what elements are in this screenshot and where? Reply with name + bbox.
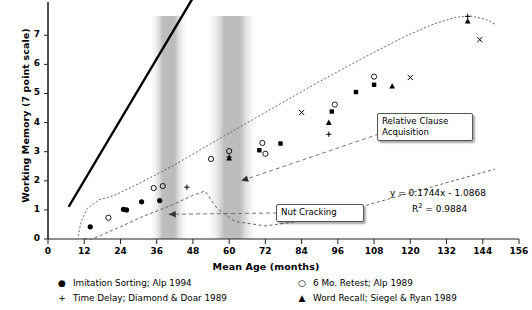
y-tick-label: 4 [24,117,40,127]
data-point-marker [260,140,265,145]
data-point-marker [408,75,413,80]
data-point-marker [139,199,144,204]
data-point-marker [88,224,93,229]
data-point-marker [157,198,162,203]
y-tick-label: 1 [24,204,40,214]
legend-label: Imitation Sorting; Alp 1994 [73,278,192,288]
open-circle-marker-icon: ○ [298,279,306,288]
x-tick-label: 36 [144,246,170,256]
legend-entry-six-month-retest[interactable]: ○6 Mo. Retest; Alp 1989 [298,278,413,288]
x-tick-label: 144 [470,246,496,256]
data-point-marker [257,148,261,152]
shaded-bands [149,16,259,239]
data-point-marker [371,74,376,79]
x-tick-label: 108 [361,246,387,256]
filled-circle-marker-icon: ● [58,279,66,288]
plus-marker-icon: + [58,294,66,303]
x-tick-label: 48 [180,246,206,256]
filled-triangle-marker-icon: ▲ [298,294,306,303]
data-point-marker [354,90,358,94]
r-squared-number: = 0.9884 [422,204,467,214]
data-point-marker [299,110,304,115]
x-tick-label: 72 [252,246,278,256]
x-tick-label: 156 [506,246,532,256]
data-point-marker [263,151,268,156]
data-point-marker [106,215,111,220]
chart-figure: Working Memory (7 point scale) Mean Age … [0,0,532,310]
x-tick-label: 120 [397,246,423,256]
legend-label: Word Recall; Siegel & Ryan 1989 [313,293,457,303]
callout-relative-clause-acquisition[interactable]: Relative Clause Acquisition [377,113,473,141]
x-tick-label: 60 [216,246,242,256]
data-point-marker [332,102,337,107]
data-point-marker [330,109,334,113]
x-tick-label: 24 [107,246,133,256]
data-point-marker [465,14,470,19]
r-squared-value: R2 = 0.9884 [412,202,467,214]
x-tick-label: 12 [71,246,97,256]
y-tick-label: 5 [24,87,40,97]
y-tick-label: 7 [24,29,40,39]
y-tick-label: 2 [24,175,40,185]
data-point-marker [465,18,471,23]
legend-label: 6 Mo. Retest; Alp 1989 [313,278,413,288]
legend-entry-time-delay[interactable]: +Time Delay; Diamond & Doar 1989 [58,293,227,303]
data-point-marker [124,207,129,212]
regression-equation: y = 0.1744x - 1.0868 [390,188,486,198]
data-point-marker [372,83,376,87]
y-tick-label: 0 [24,233,40,243]
data-point-marker [278,141,282,145]
y-tick-label: 6 [24,58,40,68]
callout-nut-cracking[interactable]: Nut Cracking [276,204,364,222]
data-point-marker [477,37,482,42]
y-tick-label: 3 [24,146,40,156]
scatter-plot-canvas [0,0,532,310]
x-tick-label: 0 [35,246,61,256]
data-point-marker [389,83,395,88]
data-point-marker [326,132,331,137]
data-point-marker [326,120,332,125]
legend-entry-word-recall[interactable]: ▲Word Recall; Siegel & Ryan 1989 [298,293,457,303]
x-tick-label: 96 [325,246,351,256]
x-tick-label: 84 [289,246,315,256]
legend-entry-imitation-sorting[interactable]: ●Imitation Sorting; Alp 1994 [58,278,192,288]
x-tick-label: 132 [434,246,460,256]
legend-label: Time Delay; Diamond & Doar 1989 [73,293,227,303]
trend-line [69,0,501,206]
